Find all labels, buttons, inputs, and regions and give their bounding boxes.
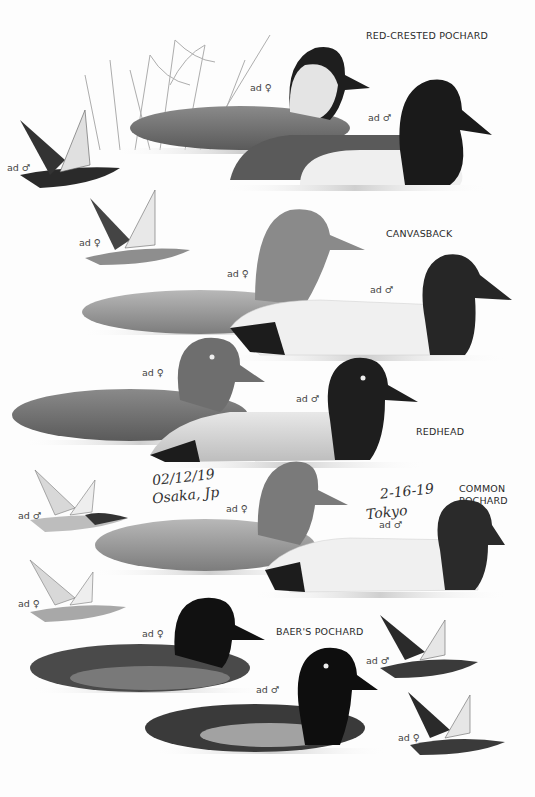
species-name-red-crested-pochard: RED-CRESTED POCHARD bbox=[366, 30, 488, 42]
baers-pochard-flying-male bbox=[380, 615, 478, 678]
age-label: ad ♂ bbox=[366, 655, 389, 666]
red-crested-pochard-flying-female bbox=[85, 190, 190, 265]
species-name-baers-pochard: BAER'S POCHARD bbox=[276, 626, 363, 638]
age-label: ad ♀ bbox=[250, 82, 272, 93]
species-name-common-pochard-line1: COMMON bbox=[459, 483, 505, 495]
common-pochard-flying-female bbox=[30, 560, 126, 622]
age-label: ad ♂ bbox=[370, 284, 393, 295]
age-label: ad ♂ bbox=[18, 510, 41, 521]
species-name-common-pochard-line2: POCHARD bbox=[459, 495, 508, 507]
age-label: ad ♀ bbox=[398, 732, 420, 743]
duck-illustrations bbox=[0, 0, 535, 797]
baers-pochard-flying-female bbox=[408, 692, 505, 755]
age-label: ad ♂ bbox=[296, 393, 319, 404]
age-label: ad ♀ bbox=[226, 503, 248, 514]
age-label: ad ♂ bbox=[7, 162, 30, 173]
age-label: ad ♀ bbox=[142, 628, 164, 639]
species-name-canvasback: CANVASBACK bbox=[386, 228, 452, 240]
species-name-redhead: REDHEAD bbox=[416, 426, 464, 438]
age-label: ad ♂ bbox=[368, 112, 391, 123]
field-guide-plate: RED-CRESTED POCHARD CANVASBACK REDHEAD C… bbox=[0, 0, 535, 797]
red-crested-pochard-female bbox=[130, 47, 370, 150]
age-label: ad ♀ bbox=[142, 367, 164, 378]
age-label: ad ♀ bbox=[227, 268, 249, 279]
age-label: ad ♀ bbox=[18, 598, 40, 609]
red-crested-pochard-flying-male bbox=[20, 110, 120, 188]
age-label: ad ♂ bbox=[256, 684, 279, 695]
age-label: ad ♂ bbox=[379, 519, 402, 530]
common-pochard-flying-male bbox=[30, 470, 128, 532]
age-label: ad ♀ bbox=[79, 237, 101, 248]
